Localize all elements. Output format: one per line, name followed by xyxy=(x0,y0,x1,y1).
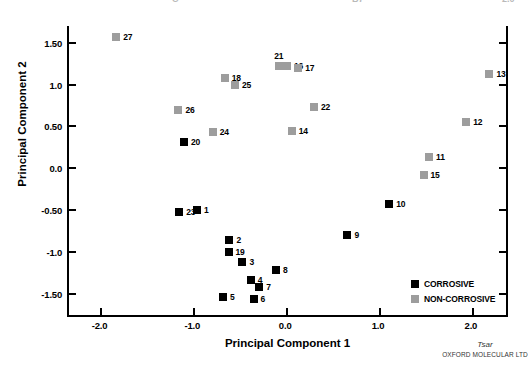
y-axis-tick xyxy=(499,125,506,127)
y-axis-tick-label: 0.50 xyxy=(44,121,62,132)
data-point-label: 15 xyxy=(431,170,440,180)
data-point[interactable] xyxy=(209,128,217,136)
data-point[interactable] xyxy=(272,266,280,274)
data-point[interactable] xyxy=(180,138,188,146)
data-point[interactable] xyxy=(288,127,296,135)
data-point-label: 1 xyxy=(204,205,209,215)
data-point[interactable] xyxy=(462,118,470,126)
data-point[interactable] xyxy=(219,293,227,301)
data-point[interactable] xyxy=(420,171,428,179)
y-axis-tick-label: -0.50 xyxy=(41,204,62,215)
data-point-label: 17 xyxy=(305,63,314,73)
data-point[interactable] xyxy=(385,200,393,208)
y-axis-tick xyxy=(499,209,506,211)
x-axis-tick xyxy=(193,308,195,315)
x-axis-tick xyxy=(100,308,102,315)
legend-item[interactable]: NON-CORROSIVE xyxy=(411,292,495,305)
chart-legend: CORROSIVENON-CORROSIVE xyxy=(411,277,495,307)
y-axis-title: Principal Component 2 xyxy=(16,44,28,204)
data-point[interactable] xyxy=(343,231,351,239)
data-point[interactable] xyxy=(225,236,233,244)
x-axis-tick-label: 1.0 xyxy=(372,320,385,331)
data-point-label: 12 xyxy=(473,117,482,127)
x-axis-tick-label: -1.0 xyxy=(185,320,201,331)
y-axis-tick xyxy=(69,293,76,295)
legend-swatch-icon xyxy=(411,280,419,288)
data-point-label: 9 xyxy=(354,230,359,240)
data-point-label: 5 xyxy=(230,292,235,302)
data-point[interactable] xyxy=(485,70,493,78)
data-point-label: 25 xyxy=(242,80,251,90)
data-point-label: 6 xyxy=(261,294,266,304)
data-point[interactable] xyxy=(174,106,182,114)
data-point-label: 19 xyxy=(236,247,245,257)
legend-label: NON-CORROSIVE xyxy=(424,294,495,304)
data-point-label: 10 xyxy=(396,199,405,209)
data-point-label: 24 xyxy=(220,127,229,137)
data-point[interactable] xyxy=(283,62,291,70)
data-point[interactable] xyxy=(231,81,239,89)
data-point-label: 14 xyxy=(299,126,308,136)
data-point[interactable] xyxy=(238,258,246,266)
x-axis-tick-label: 0.0 xyxy=(279,320,292,331)
legend-label: CORROSIVE xyxy=(424,279,474,289)
data-point-label: 27 xyxy=(123,32,132,42)
y-axis-tick-label: -1.0 xyxy=(46,246,62,257)
data-point-label: 11 xyxy=(436,152,445,162)
x-axis-tick xyxy=(379,308,381,315)
y-axis-tick-label: 1.50 xyxy=(44,37,62,48)
y-axis-tick-label: 0.0 xyxy=(49,163,62,174)
x-axis-tick-label: -2.0 xyxy=(92,320,108,331)
y-axis-tick xyxy=(499,167,506,169)
data-point-label: 26 xyxy=(185,105,194,115)
data-point-label: 22 xyxy=(321,102,330,112)
header-text-fragment: C xyxy=(172,0,179,4)
watermark-brand: Tsar xyxy=(440,340,530,350)
y-axis-tick xyxy=(69,42,76,44)
data-point[interactable] xyxy=(247,276,255,284)
y-axis-tick xyxy=(499,251,506,253)
data-point[interactable] xyxy=(112,33,120,41)
cropped-header-strip: CB72.0 xyxy=(0,0,525,9)
data-point-label: 8 xyxy=(283,265,288,275)
data-point[interactable] xyxy=(255,283,263,291)
data-point[interactable] xyxy=(175,208,183,216)
y-axis-tick xyxy=(69,84,76,86)
data-point[interactable] xyxy=(294,64,302,72)
header-text-fragment: B7 xyxy=(352,0,364,4)
data-point-label: 13 xyxy=(496,69,505,79)
data-point[interactable] xyxy=(425,153,433,161)
data-point[interactable] xyxy=(275,62,283,70)
y-axis-tick xyxy=(69,209,76,211)
legend-item[interactable]: CORROSIVE xyxy=(411,277,495,290)
data-point[interactable] xyxy=(193,206,201,214)
y-axis-tick xyxy=(499,42,506,44)
y-axis-tick-label: -1.50 xyxy=(41,288,62,299)
data-point-label: 3 xyxy=(249,257,254,267)
data-point-label: 7 xyxy=(266,282,271,292)
data-point-label: 2 xyxy=(236,235,241,245)
watermark-company: OXFORD MOLECULAR LTD xyxy=(440,350,530,359)
y-axis-tick xyxy=(69,251,76,253)
y-axis-tick-label: 1.0 xyxy=(49,79,62,90)
y-axis-tick xyxy=(499,293,506,295)
data-point[interactable] xyxy=(225,248,233,256)
x-axis-tick xyxy=(472,308,474,315)
data-point[interactable] xyxy=(250,295,258,303)
y-axis-tick xyxy=(69,125,76,127)
data-point-label: 21 xyxy=(274,51,283,61)
y-axis-tick xyxy=(499,84,506,86)
watermark: Tsar OXFORD MOLECULAR LTD xyxy=(440,340,530,359)
y-axis-tick xyxy=(69,167,76,169)
data-point[interactable] xyxy=(221,74,229,82)
x-axis-tick-label: 2.0 xyxy=(465,320,478,331)
legend-swatch-icon xyxy=(411,295,419,303)
x-axis-tick xyxy=(286,308,288,315)
data-point[interactable] xyxy=(310,103,318,111)
header-text-fragment: 2.0 xyxy=(502,0,515,4)
data-point-label: 20 xyxy=(191,137,200,147)
